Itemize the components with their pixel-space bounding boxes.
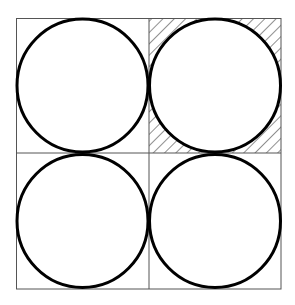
circle-bottom-left bbox=[17, 155, 148, 288]
four-circles-diagram bbox=[0, 0, 295, 305]
circle-bottom-right bbox=[150, 155, 281, 288]
circle-top-left bbox=[17, 19, 148, 152]
